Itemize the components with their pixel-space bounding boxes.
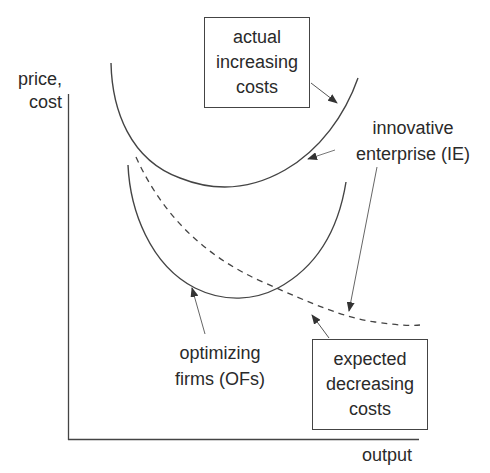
ofs-label-line2: firms (OFs): [160, 366, 280, 392]
expected-box-line1: expected: [313, 347, 427, 372]
arrow-actual-costs: [311, 83, 337, 103]
y-axis-label-line2: cost: [10, 91, 62, 114]
ie-label-line1: innovative: [343, 115, 483, 141]
actual-costs-box: actual increasing costs: [204, 17, 310, 108]
x-axis-label-text: output: [362, 444, 412, 467]
arrow-ie: [308, 150, 335, 159]
actual-box-line2: increasing: [205, 50, 309, 75]
y-axis-label-line1: price,: [10, 68, 62, 91]
actual-box-line3: costs: [205, 75, 309, 100]
y-axis-label: price, cost: [10, 68, 62, 114]
actual-box-line1: actual: [205, 25, 309, 50]
expected-box-line3: costs: [313, 397, 427, 422]
ie-label: innovative enterprise (IE): [343, 115, 483, 167]
of-cost-curve: [128, 165, 346, 298]
expected-cost-curve: [136, 157, 420, 325]
arrow-ofs: [192, 288, 205, 334]
x-axis-label: output: [362, 444, 412, 467]
expected-box-line2: decreasing: [313, 372, 427, 397]
ofs-label: optimizing firms (OFs): [160, 340, 280, 392]
arrow-ie-to-expected: [349, 167, 377, 311]
ofs-label-line1: optimizing: [160, 340, 280, 366]
ie-label-line2: enterprise (IE): [343, 141, 483, 167]
arrow-expected-costs: [312, 315, 329, 338]
expected-costs-box: expected decreasing costs: [312, 339, 428, 430]
